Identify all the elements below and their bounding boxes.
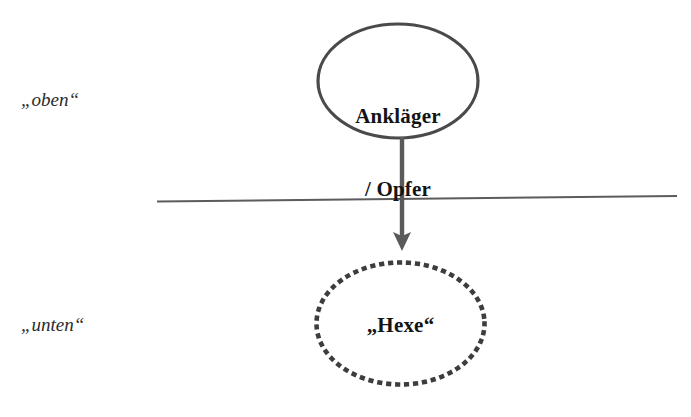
diagram-canvas: Gemeinschaft „oben“ „unten“ Ankläger / O… xyxy=(0,0,691,417)
label-unten: „unten“ xyxy=(21,314,84,336)
node-label-witch: „Hexe“ xyxy=(316,313,485,337)
heading-fragment: Gemeinschaft xyxy=(17,0,120,4)
node-label-accuser-line1: Ankläger xyxy=(318,104,478,128)
label-oben: „oben“ xyxy=(21,89,79,111)
node-label-accuser-victim: Ankläger / Opfer xyxy=(318,55,478,250)
node-label-accuser-line2: / Opfer xyxy=(318,177,478,201)
